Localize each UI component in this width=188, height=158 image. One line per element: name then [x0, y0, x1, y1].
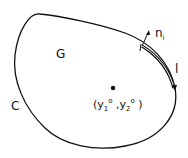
normal-label: ni — [155, 27, 165, 42]
normal-label-sub: i — [163, 34, 165, 42]
normal-arrow-icon — [146, 30, 150, 35]
point-coordinates: (y1o ,y2o ) — [93, 98, 143, 113]
curve-label-c: C — [11, 100, 19, 112]
y2-sub: 2 — [126, 105, 130, 113]
segment-l-inner — [142, 46, 174, 88]
paren-close: ) — [138, 98, 142, 111]
y2-sup: o — [131, 97, 135, 105]
y1-sup: o — [108, 97, 112, 105]
normal-tick — [140, 44, 141, 51]
diagram-canvas — [0, 0, 188, 158]
segment-l-outline — [142, 46, 174, 88]
normal-label-base: n — [155, 26, 163, 40]
region-label-g: G — [56, 48, 65, 60]
segment-label-l: l — [175, 63, 178, 75]
y1-sub: 1 — [104, 105, 108, 113]
point-marker — [111, 86, 115, 90]
closed-curve-c — [15, 14, 176, 148]
